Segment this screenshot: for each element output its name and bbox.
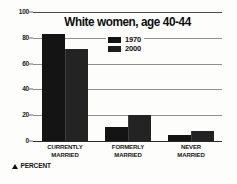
- x-axis-label-0: CURRENTLYMARRIED: [32, 143, 98, 159]
- bar-1970-0: [42, 34, 65, 141]
- legend-swatch-1970: [108, 37, 121, 43]
- x-axis-label-line: MARRIED: [158, 151, 224, 159]
- x-axis-label-1: FORMERLYMARRIED: [95, 143, 161, 159]
- x-axis-label-line: CURRENTLY: [32, 143, 98, 151]
- x-axis-label-2: NEVERMARRIED: [158, 143, 224, 159]
- y-tick-label-40: 40: [22, 86, 29, 93]
- x-axis-label-line: MARRIED: [32, 151, 98, 159]
- y-tick-label-20: 20: [22, 112, 29, 119]
- x-axis-label-line: FORMERLY: [95, 143, 161, 151]
- bar-group: [168, 12, 214, 141]
- bar-1970-1: [105, 127, 128, 141]
- legend-label-2000: 2000: [125, 45, 141, 53]
- x-axis-category-labels: CURRENTLYMARRIEDFORMERLYMARRIEDNEVERMARR…: [33, 143, 222, 163]
- bar-2000-2: [191, 131, 214, 141]
- y-tick-label-100: 100: [19, 9, 29, 16]
- bar-2000-0: [65, 49, 88, 141]
- x-axis-label-line: NEVER: [158, 143, 224, 151]
- bar-group: [105, 12, 151, 141]
- bar-2000-1: [128, 115, 151, 141]
- legend-item-1970: 1970: [108, 35, 141, 44]
- legend-label-1970: 1970: [125, 36, 141, 44]
- bar-group: [42, 12, 88, 141]
- gridline-0: 0: [33, 141, 222, 142]
- bar-1970-2: [168, 135, 191, 141]
- bar-chart-figure: 020406080100 White women, age 40-44 1970…: [0, 0, 237, 184]
- legend-item-2000: 2000: [108, 44, 141, 53]
- legend-swatch-2000: [108, 46, 121, 52]
- chart-legend: 1970 2000: [106, 34, 144, 54]
- axis-unit-label: PERCENT: [21, 163, 51, 170]
- y-tick-label-60: 60: [22, 60, 29, 67]
- plot-area: 020406080100 White women, age 40-44 1970…: [33, 12, 222, 141]
- chart-title: White women, age 40-44: [39, 16, 217, 29]
- triangle-up-icon: [12, 164, 18, 169]
- x-axis-label-line: MARRIED: [95, 151, 161, 159]
- y-tick-label-80: 80: [22, 35, 29, 42]
- axis-unit-note: PERCENT: [12, 163, 51, 170]
- bar-series-container: [33, 12, 222, 141]
